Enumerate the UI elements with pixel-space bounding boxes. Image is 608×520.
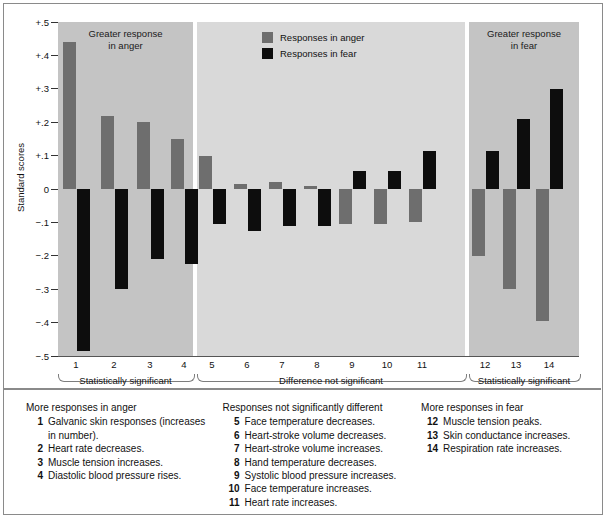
bar-anger-11 [409,189,422,222]
caption-heading: More responses in fear [421,401,601,414]
caption-list: 1Galvanic skin responses (increases in n… [26,415,211,482]
caption-item-number: 9 [223,469,240,482]
bar-fear-13 [517,119,530,189]
y-axis-tick-label: +.1 [36,150,58,161]
caption-item-text: Heart rate decreases. [48,442,211,455]
caption-item-number: 3 [26,456,43,469]
caption-item-number: 11 [223,496,240,509]
caption-heading: Responses not significantly different [223,401,408,414]
y-axis-tick-label: +.3 [36,83,58,94]
x-axis-label-4: 4 [169,359,199,370]
bar-anger-6 [234,184,247,189]
caption-item: 10Face temperature increases. [223,482,408,495]
bar-anger-9 [339,189,352,224]
caption-item-text: Heart-stroke volume decreases. [245,429,408,442]
caption-item: 12Muscle tension peaks. [421,415,601,428]
caption-item-number: 8 [223,456,240,469]
group-brace-label: Statistically significant [58,375,193,386]
bar-fear-9 [353,171,366,189]
caption-item: 11Heart rate increases. [223,496,408,509]
caption-item-number: 4 [26,469,43,482]
x-axis-label-13: 13 [501,359,531,370]
bar-fear-5 [213,189,226,224]
bar-anger-4 [171,139,184,189]
y-axis-tick-label: −.4 [36,317,58,328]
bar-fear-1 [77,189,90,351]
caption-item: 1Galvanic skin responses (increases in n… [26,415,211,442]
y-axis-tick: +.3 [4,83,58,94]
caption-heading: More responses in anger [26,401,211,414]
caption-item-text: Face temperature increases. [245,482,408,495]
legend: Responses in anger Responses in fear [262,32,365,64]
bar-fear-12 [486,151,499,189]
legend-swatch-fear-icon [262,48,273,59]
x-axis-label-11: 11 [407,359,437,370]
x-axis-label-10: 10 [372,359,402,370]
x-axis-label-8: 8 [302,359,332,370]
x-axis-label-1: 1 [61,359,91,370]
y-axis-tick: +.4 [4,50,58,61]
caption-item: 14Respiration rate increases. [421,442,601,455]
caption-item-number: 7 [223,442,240,455]
x-axis-label-9: 9 [337,359,367,370]
caption-item-text: Galvanic skin responses (increases in nu… [48,415,211,442]
bar-fear-14 [550,89,563,189]
bar-anger-8 [304,186,317,189]
bar-anger-5 [199,156,212,189]
caption-item-text: Heart-stroke volume increases. [245,442,408,455]
x-axis-label-2: 2 [99,359,129,370]
caption-item: 8Hand temperature decreases. [223,456,408,469]
y-axis-tick-label: +.4 [36,50,58,61]
bar-anger-14 [536,189,549,321]
bar-fear-8 [318,189,331,226]
caption-item-number: 5 [223,415,240,428]
caption-item-number: 10 [223,482,240,495]
bar-fear-7 [283,189,296,226]
caption-item-text: Systolic blood pressure increases. [245,469,408,482]
caption-item-number: 13 [421,429,438,442]
caption-item: 2Heart rate decreases. [26,442,211,455]
y-axis-tick: −.2 [4,250,58,261]
y-axis-tick-label: −.3 [36,284,58,295]
bar-fear-11 [423,151,436,189]
y-axis-tick: +.1 [4,150,58,161]
group-brace-label: Statistically significant [469,375,579,386]
x-axis-label-7: 7 [267,359,297,370]
bar-anger-13 [503,189,516,289]
caption-item-number: 1 [26,415,43,428]
y-axis-tick: −.4 [4,317,58,328]
bar-fear-6 [248,189,261,231]
bar-anger-1 [63,42,76,189]
y-axis-tick: 0 [4,184,58,195]
caption-item: 3Muscle tension increases. [26,456,211,469]
caption-item-number: 14 [421,442,438,455]
bar-anger-3 [137,122,150,189]
bar-fear-3 [151,189,164,259]
y-axis-tick-label: −.1 [36,217,58,228]
bar-anger-12 [472,189,485,256]
legend-label-fear: Responses in fear [280,48,357,59]
bar-fear-2 [115,189,128,289]
x-axis-line [58,356,579,357]
caption-item: 4Diastolic blood pressure rises. [26,469,211,482]
figure-frame: Greater response in anger Greater respon… [3,3,603,515]
bar-anger-2 [101,116,114,189]
caption-item: 9Systolic blood pressure increases. [223,469,408,482]
y-axis-tick-label: +.2 [36,117,58,128]
caption-item-text: Muscle tension increases. [48,456,211,469]
y-axis-tick-label: +.5 [36,17,58,28]
y-axis-tick-label: 0 [44,184,58,195]
caption-item-text: Skin conductance increases. [443,429,601,442]
panel-significant-fear: Greater response in fear [469,22,579,356]
caption-column-anger: More responses in anger 1Galvanic skin r… [4,390,211,514]
x-axis-label-3: 3 [135,359,165,370]
caption-item: 6Heart-stroke volume decreases. [223,429,408,442]
caption-item: 7Heart-stroke volume increases. [223,442,408,455]
caption-list: 12Muscle tension peaks.13Skin conductanc… [421,415,601,455]
y-axis-tick-label: −.2 [36,250,58,261]
caption-item-text: Heart rate increases. [245,496,408,509]
caption-item-number: 2 [26,442,43,455]
bar-anger-7 [269,182,282,189]
caption-item-text: Respiration rate increases. [443,442,601,455]
caption-column-fear: More responses in fear 12Muscle tension … [407,390,601,514]
